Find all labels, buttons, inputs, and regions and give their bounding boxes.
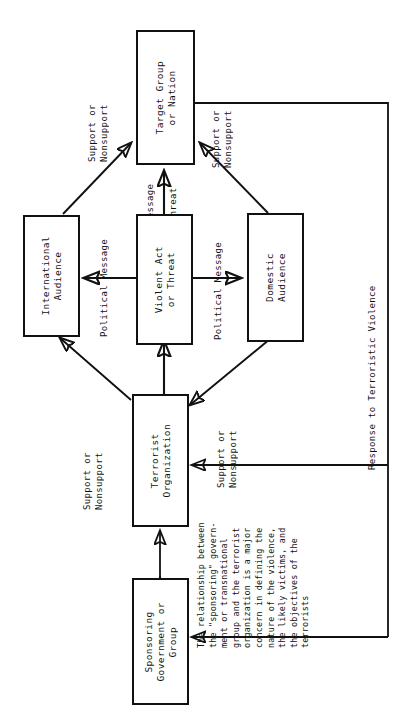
node-violent-act-label: Violent Act or Threat [153, 246, 177, 313]
node-terrorist-organization-label: Terrorist Organization [149, 424, 173, 497]
edge-org-to-international [60, 338, 131, 400]
label-political-message-right: Political Message [212, 222, 224, 340]
node-target-group-label: Target Group or Nation [154, 61, 178, 134]
node-violent-act[interactable]: Violent Act or Threat [136, 214, 193, 345]
node-domestic-audience-label: Domestic Audience [264, 253, 288, 302]
node-target-group[interactable]: Target Group or Nation [136, 30, 195, 165]
label-response-to-terroristic-violence: Response to Terroristic Violence [366, 240, 378, 470]
node-domestic-audience[interactable]: Domestic Audience [247, 213, 304, 342]
node-terrorist-organization[interactable]: Terrorist Organization [132, 394, 189, 527]
label-support-nonsupport-international-org: Support or Nonsupport [81, 410, 105, 510]
node-international-audience[interactable]: International Audience [23, 215, 80, 337]
label-political-message-left: Political Message [98, 219, 110, 337]
note-sponsoring-relationship: The relationship between the "sponsoring… [196, 472, 312, 648]
node-international-audience-label: International Audience [40, 236, 64, 316]
node-sponsoring-government[interactable]: Sponsoring Government or Group [132, 578, 189, 705]
node-sponsoring-government-label: Sponsoring Government or Group [143, 602, 179, 682]
label-support-nonsupport-international-target: Support or Nonsupport [86, 62, 110, 162]
label-support-nonsupport-domestic-target: Support or Nonsupport [210, 68, 234, 168]
diagram-canvas: Target Group or Nation International Aud… [0, 0, 404, 714]
